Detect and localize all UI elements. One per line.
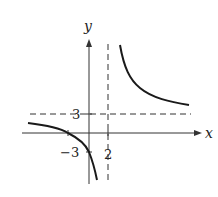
curve-right-branch bbox=[120, 45, 189, 105]
tick-label-3: 3 bbox=[72, 107, 80, 122]
rational-function-graph: y x 3 −3 2 bbox=[0, 0, 218, 197]
tick-label-neg3: −3 bbox=[60, 145, 79, 160]
tick-label-2: 2 bbox=[104, 147, 112, 162]
x-axis-arrow-icon bbox=[194, 130, 202, 136]
graph-canvas: y x 3 −3 2 bbox=[0, 0, 218, 197]
y-axis-label: y bbox=[83, 18, 93, 34]
y-axis-arrow-icon bbox=[86, 39, 92, 47]
x-axis-label: x bbox=[205, 125, 213, 141]
